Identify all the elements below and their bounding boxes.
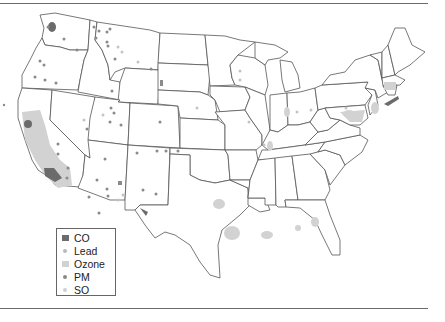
legend-label: Ozone (74, 258, 105, 270)
state-kansas (180, 118, 225, 150)
state-north-dakota (158, 33, 208, 65)
legend-label: Lead (74, 245, 97, 257)
state-maine (388, 28, 425, 75)
so-dot-icon (63, 288, 67, 292)
state-new-mexico (125, 145, 170, 210)
state-washington (40, 13, 90, 50)
pm-dot-icon (63, 275, 67, 279)
map-legend: CO Lead Ozone PM SO (56, 228, 116, 296)
legend-label: CO (74, 232, 90, 244)
legend-item-lead: Lead (57, 244, 115, 257)
co-square-icon (62, 235, 69, 241)
bottom-rule (0, 308, 428, 309)
legend-item-co: CO (57, 231, 115, 244)
legend-label: SO (74, 284, 89, 296)
legend-item-pm: PM (57, 270, 115, 283)
state-colorado (128, 103, 180, 148)
state-wyoming (118, 68, 160, 104)
legend-item-ozone: Ozone (57, 257, 115, 270)
state-florida (285, 200, 340, 255)
legend-item-so: SO (57, 283, 115, 296)
lead-dot-icon (63, 249, 67, 253)
legend-label: PM (74, 271, 90, 283)
ozone-square-icon (62, 261, 69, 267)
